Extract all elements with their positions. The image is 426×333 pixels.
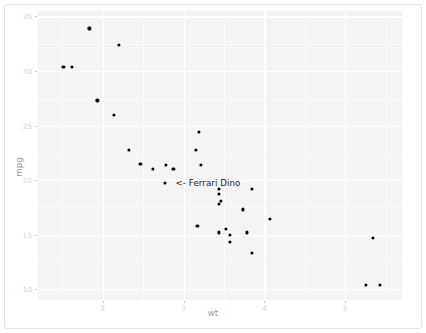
data-point[interactable] [241, 208, 244, 211]
data-point[interactable] [197, 130, 200, 133]
data-point[interactable] [250, 252, 253, 255]
data-point[interactable] [269, 218, 272, 221]
y-axis-tick-mark [35, 16, 37, 17]
data-point[interactable] [96, 99, 99, 102]
data-point[interactable] [164, 163, 167, 166]
data-point[interactable] [378, 283, 381, 286]
data-point[interactable] [199, 163, 202, 166]
y-axis-tick-label: 10 [23, 285, 32, 294]
data-point[interactable] [228, 233, 231, 236]
y-axis-tick-mark [35, 289, 37, 290]
gridline-minor-vertical [62, 11, 63, 300]
gridline-major-horizontal [38, 235, 402, 236]
data-point[interactable] [88, 27, 91, 30]
data-point[interactable] [364, 283, 367, 286]
data-point[interactable] [218, 193, 221, 196]
data-point[interactable] [250, 187, 253, 190]
y-axis-tick-label: 20 [23, 176, 32, 185]
gridline-major-vertical [184, 11, 185, 300]
point-annotation-label: <- Ferrari Dino [176, 178, 241, 188]
plot-panel: <- Ferrari Dino [38, 11, 402, 300]
data-point[interactable] [70, 65, 73, 68]
gridline-major-vertical [103, 11, 104, 300]
gridline-minor-horizontal [38, 44, 402, 45]
x-axis-tick-label: 2 [100, 304, 105, 313]
gridline-major-horizontal [38, 71, 402, 72]
data-point[interactable] [62, 65, 65, 68]
y-axis-tick-mark [35, 235, 37, 236]
y-axis-tick-label: 35 [23, 12, 32, 21]
gridline-minor-horizontal [38, 153, 402, 154]
data-point[interactable] [172, 168, 175, 171]
data-point[interactable] [163, 182, 166, 185]
data-point[interactable] [117, 43, 120, 46]
x-axis-tick-label: 4 [262, 304, 267, 313]
gridline-minor-vertical [305, 11, 306, 300]
x-axis-title: wt [0, 308, 426, 318]
data-point[interactable] [372, 236, 375, 239]
gridline-major-vertical [345, 11, 346, 300]
y-axis-tick-mark [35, 71, 37, 72]
y-axis-tick-mark [35, 126, 37, 127]
data-point[interactable] [245, 231, 248, 234]
data-point[interactable] [218, 202, 221, 205]
x-axis-tick-label: 5 [343, 304, 348, 313]
gridline-minor-horizontal [38, 262, 402, 263]
data-point[interactable] [139, 162, 142, 165]
chart-canvas: mpg wt <- Ferrari Dino 1015202530352345 [0, 0, 426, 333]
data-point[interactable] [127, 148, 130, 151]
gridline-minor-vertical [224, 11, 225, 300]
gridline-major-horizontal [38, 16, 402, 17]
y-axis-tick-label: 25 [23, 121, 32, 130]
data-point[interactable] [217, 231, 220, 234]
gridline-major-horizontal [38, 289, 402, 290]
gridline-major-vertical [264, 11, 265, 300]
gridline-minor-vertical [386, 11, 387, 300]
data-point[interactable] [194, 148, 197, 151]
gridline-minor-horizontal [38, 207, 402, 208]
data-point[interactable] [151, 168, 154, 171]
x-axis-tick-label: 3 [181, 304, 186, 313]
gridline-minor-horizontal [38, 98, 402, 99]
data-point[interactable] [196, 224, 199, 227]
gridline-major-horizontal [38, 126, 402, 127]
data-point[interactable] [228, 241, 231, 244]
y-axis-tick-mark [35, 180, 37, 181]
gridline-minor-vertical [143, 11, 144, 300]
data-point[interactable] [112, 113, 115, 116]
y-axis-tick-label: 30 [23, 66, 32, 75]
data-point[interactable] [224, 228, 227, 231]
y-axis-tick-label: 15 [23, 230, 32, 239]
